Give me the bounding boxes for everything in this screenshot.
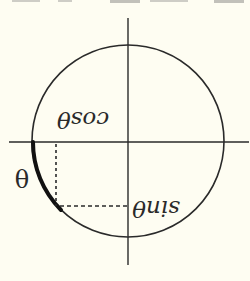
diagram-svg: θ cosθ sinθ	[0, 0, 250, 281]
cos-label: cosθ	[57, 107, 110, 133]
unit-circle-figure: θ cosθ sinθ	[0, 0, 250, 281]
sin-label: sinθ	[132, 196, 180, 222]
cropped-text-fragments	[12, 0, 244, 3]
cos-label-group: cosθ	[57, 107, 110, 133]
sin-label-group: sinθ	[132, 196, 180, 222]
theta-label: θ	[15, 166, 29, 194]
